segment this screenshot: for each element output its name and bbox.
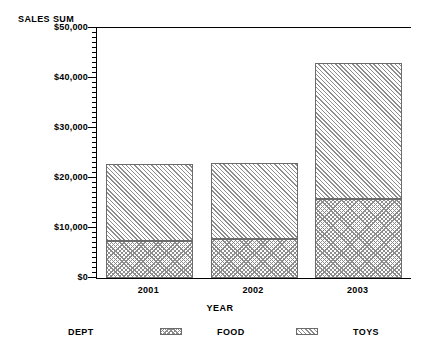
y-tick-label: $40,000 <box>2 72 88 82</box>
y-axis-tick-labels: $0$10,000$20,000$30,000$40,000$50,000 <box>0 0 88 355</box>
legend-swatch-toys <box>296 328 318 335</box>
bar-group[interactable] <box>106 28 193 278</box>
x-tick-label: 2003 <box>347 285 368 295</box>
bar-segment-toys[interactable] <box>315 63 402 199</box>
bar-group[interactable] <box>315 28 402 278</box>
x-tick-label: 2001 <box>138 285 159 295</box>
x-axis-title: YEAR <box>0 303 440 313</box>
y-tick-label: $20,000 <box>2 172 88 182</box>
legend-swatch-food <box>160 328 182 335</box>
bar-segment-toys[interactable] <box>211 163 298 239</box>
legend-label: FOOD <box>217 327 245 337</box>
stacked-bar-chart: SALES SUM $0$10,000$20,000$30,000$40,000… <box>0 0 440 355</box>
bar-segment-food[interactable] <box>211 239 298 278</box>
chart-legend: DEPT FOODTOYS <box>0 325 440 345</box>
plot-area <box>96 27 411 279</box>
y-tick-label: $0 <box>2 272 88 282</box>
bar-segment-food[interactable] <box>315 199 402 278</box>
y-tick-label: $10,000 <box>2 222 88 232</box>
bar-group[interactable] <box>211 28 298 278</box>
bar-segment-toys[interactable] <box>106 164 193 241</box>
y-tick-label: $50,000 <box>2 22 88 32</box>
y-tick-label: $30,000 <box>2 122 88 132</box>
x-tick-label: 2002 <box>242 285 263 295</box>
legend-title: DEPT <box>68 327 94 337</box>
legend-label: TOYS <box>353 327 379 337</box>
bar-segment-food[interactable] <box>106 241 193 278</box>
